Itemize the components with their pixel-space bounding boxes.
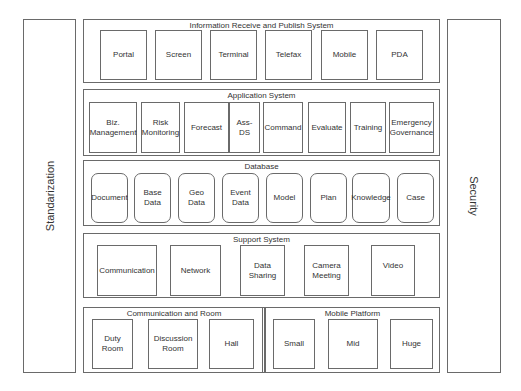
app-item-training: Training	[350, 102, 386, 153]
room-item-duty-room: Duty Room	[92, 319, 133, 369]
room-item-discussion-room: Discussion Room	[148, 319, 198, 369]
app-item-ass-ds: Ass- DS	[229, 102, 260, 153]
mobile-item-small: Small	[273, 319, 315, 369]
app-item-risk-monitoring: Risk Monitoring	[141, 102, 180, 153]
db-item-case: Case	[397, 173, 434, 223]
mobile-item-mid: Mid	[328, 319, 378, 369]
info-item-telefax: Telefax	[265, 30, 312, 80]
support-layer-title: Support System	[84, 235, 439, 245]
application-layer-title: Application System	[84, 91, 439, 101]
info-item-mobile: Mobile	[321, 30, 368, 80]
support-item-communication: Communication	[97, 245, 157, 296]
info-item-portal: Portal	[100, 30, 147, 80]
app-item-forecast: Forecast	[184, 102, 229, 153]
info-item-terminal: Terminal	[210, 30, 257, 80]
db-item-document: Document	[91, 173, 128, 223]
info-item-screen: Screen	[155, 30, 202, 80]
support-item-video: Video	[371, 245, 415, 296]
security-panel: Security	[447, 19, 501, 373]
standardization-label: Standarization	[44, 161, 56, 231]
mobile-item-huge: Huge	[390, 319, 433, 369]
app-item-emergency-governance: Emergency Governance	[389, 102, 434, 153]
comm-room-layer-title: Communication and Room	[84, 309, 264, 319]
db-item-base-data: Base Data	[134, 173, 171, 223]
db-item-event-data: Event Data	[222, 173, 259, 223]
db-item-geo-data: Geo Data	[178, 173, 215, 223]
support-item-network: Network	[170, 245, 221, 296]
standardization-panel: Standarization	[23, 19, 76, 373]
app-item-command: Command	[263, 102, 303, 153]
app-item-biz-management: Biz. Management	[89, 102, 137, 153]
info-item-pda: PDA	[376, 30, 423, 80]
bottom-divider	[262, 307, 263, 373]
support-item-data-sharing: Data Sharing	[240, 245, 285, 296]
room-item-hall: Hall	[209, 319, 254, 369]
support-item-camera-meeting: Camera Meeting	[304, 245, 349, 296]
db-item-model: Model	[266, 173, 303, 223]
db-item-plan: Plan	[310, 173, 347, 223]
security-label: Security	[468, 176, 480, 216]
db-item-knowledge: Knowledge	[352, 173, 390, 223]
mobile-platform-layer-title: Mobile Platform	[266, 309, 439, 319]
app-item-evaluate: Evaluate	[308, 102, 346, 153]
database-layer-title: Database	[84, 162, 439, 172]
